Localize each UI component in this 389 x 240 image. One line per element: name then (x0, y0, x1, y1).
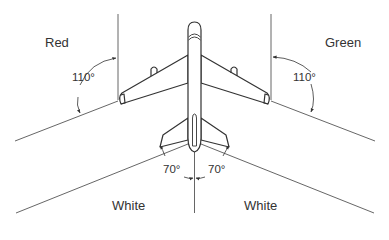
right-stabilizer (201, 118, 229, 147)
green-angle-arc-lower (311, 84, 314, 112)
white-right-angle-label: 70° (208, 164, 225, 176)
red-sector-label: Red (45, 36, 69, 49)
white-left-sector-label: White (112, 199, 145, 212)
left-stabilizer (160, 118, 188, 147)
green-sector-label: Green (325, 36, 361, 49)
red-angle-arc-lower (77, 97, 80, 113)
right-tail-sector-line (201, 144, 374, 213)
red-angle-label: 110° (72, 72, 95, 84)
white-right-angle-arc-lower (196, 177, 205, 178)
left-wing-sector-line (15, 101, 118, 141)
left-tail-sector-line (16, 144, 188, 213)
green-angle-label: 110° (293, 72, 316, 84)
green-angle-arc (273, 57, 311, 72)
white-right-sector-label: White (244, 199, 277, 212)
left-wing (120, 55, 188, 104)
right-wing (201, 55, 269, 104)
white-left-angle-label: 70° (163, 164, 180, 176)
right-wing-sector-line (271, 101, 375, 141)
tail-fin (193, 114, 197, 146)
white-left-angle-arc-lower (184, 177, 193, 178)
aircraft (120, 22, 270, 152)
